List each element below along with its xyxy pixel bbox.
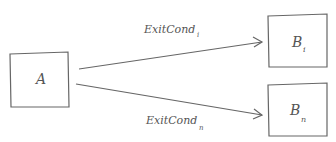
node-bi-subscript: i bbox=[303, 45, 306, 54]
node-bi: B i bbox=[268, 14, 327, 67]
node-bn-label: B bbox=[289, 102, 300, 118]
edge-a-bn: ExitCond n bbox=[76, 84, 262, 132]
arrow-line bbox=[76, 84, 262, 115]
state-diagram: A B i B n ExitCond i ExitCond n bbox=[0, 0, 336, 142]
edge-a-bn-subscript: n bbox=[199, 124, 204, 132]
edge-a-bi-subscript: i bbox=[197, 31, 199, 39]
edge-a-bi: ExitCond i bbox=[79, 23, 262, 69]
node-a-label: A bbox=[34, 71, 46, 87]
node-bn: B n bbox=[268, 83, 327, 136]
node-a: A bbox=[10, 52, 69, 107]
node-bi-label: B bbox=[291, 34, 302, 50]
arrow-line bbox=[79, 42, 262, 69]
edge-a-bi-label: ExitCond bbox=[143, 23, 195, 36]
node-bn-subscript: n bbox=[301, 115, 306, 124]
edge-a-bn-label: ExitCond bbox=[145, 114, 197, 127]
